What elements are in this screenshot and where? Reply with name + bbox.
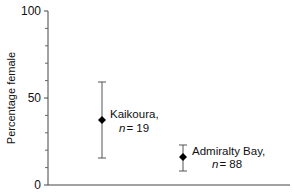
diamond-marker-icon (98, 116, 106, 124)
point-label-admiralty-bay: Admiralty Bay, (192, 145, 265, 157)
y-major-ticks (44, 11, 48, 185)
data-point-admiralty-bay: Admiralty Bay, n= 88 (179, 145, 265, 171)
y-tick-label-100: 100 (21, 4, 41, 18)
point-n-kaikoura: n= 19 (119, 122, 149, 134)
y-axis-title: Percentage female (5, 52, 17, 144)
y-tick-label-50: 50 (28, 91, 42, 105)
point-n-admiralty-bay: n= 88 (212, 158, 242, 170)
chart: Percentage female 100 50 0 Kaikoura, n= … (0, 0, 293, 194)
diamond-marker-icon (179, 153, 187, 161)
data-point-kaikoura: Kaikoura, n= 19 (98, 82, 159, 158)
y-tick-label-0: 0 (34, 178, 41, 192)
point-label-kaikoura: Kaikoura, (110, 108, 159, 120)
